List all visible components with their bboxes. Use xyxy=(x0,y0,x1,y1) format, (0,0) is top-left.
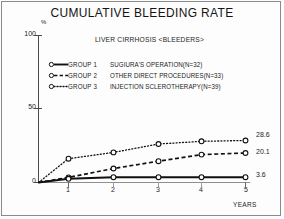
data-point xyxy=(66,176,71,181)
chart-container: CUMULATIVE BLEEDING RATE LIVER CIRRHOSIS… xyxy=(0,0,284,219)
data-point xyxy=(243,151,248,156)
end-value-label-group-2: 20.1 xyxy=(256,148,270,155)
legend-marker-dotted-icon xyxy=(48,82,68,91)
end-value-label-group-3: 28.6 xyxy=(256,131,270,138)
data-point xyxy=(156,159,161,164)
data-point xyxy=(111,150,116,155)
legend-desc-3: INJECTION SCLEROTHERAPY(N=39) xyxy=(110,81,221,92)
legend-desc-2: OTHER DIRECT PROCEDURES(N=33) xyxy=(110,70,223,81)
data-point xyxy=(156,142,161,147)
legend-item-group-3: GROUP 3 INJECTION SCLEROTHERAPY(N=39) xyxy=(48,81,229,92)
legend-item-group-2: GROUP 2 OTHER DIRECT PROCEDURES(N=33) xyxy=(48,70,229,81)
legend-group-name-2: GROUP 2 xyxy=(68,70,108,81)
data-point xyxy=(243,175,248,180)
data-point xyxy=(199,175,204,180)
chart-plot-svg xyxy=(0,0,284,219)
legend-marker-dashed-icon xyxy=(48,71,68,80)
legend-marker-solid-icon xyxy=(48,60,68,69)
axis-lines xyxy=(34,35,250,188)
chart-legend: GROUP 1 SUGIURA'S OPERATION(N=32) GROUP … xyxy=(48,59,229,92)
data-point xyxy=(156,175,161,180)
data-point xyxy=(66,156,71,161)
data-point xyxy=(199,139,204,144)
data-point xyxy=(111,175,116,180)
legend-group-name-1: GROUP 1 xyxy=(68,59,108,70)
data-point xyxy=(199,152,204,157)
legend-desc-1: SUGIURA'S OPERATION(N=32) xyxy=(110,59,202,70)
legend-item-group-1: GROUP 1 SUGIURA'S OPERATION(N=32) xyxy=(48,59,229,70)
data-point xyxy=(243,138,248,143)
data-point xyxy=(111,166,116,171)
legend-group-name-3: GROUP 3 xyxy=(68,81,108,92)
end-value-label-group-1: 3.6 xyxy=(256,171,266,178)
